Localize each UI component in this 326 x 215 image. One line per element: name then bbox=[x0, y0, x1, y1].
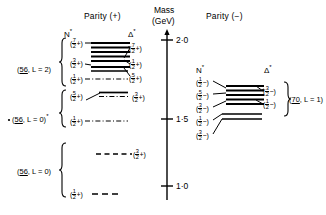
energy-level-diagram: Parity (+) Parity (−) Mass (GeV) N* Δ* N… bbox=[0, 0, 326, 215]
right-level-lines-70-L1 bbox=[222, 86, 264, 119]
left-level-lines-56-L0-star bbox=[85, 93, 130, 122]
mass-axis bbox=[161, 29, 173, 200]
brace-56-L2 bbox=[59, 38, 66, 86]
right-nstar-leaders bbox=[213, 81, 226, 134]
left-leader-lines-56-L2 bbox=[85, 43, 91, 65]
left-level-lines-56-L0 bbox=[92, 154, 132, 194]
diagram-vector-layer bbox=[0, 0, 326, 215]
brace-70-L1 bbox=[284, 82, 291, 116]
brace-56-L0 bbox=[59, 143, 66, 197]
brace-56-L0-star bbox=[59, 90, 66, 127]
footnote-dot bbox=[8, 119, 10, 121]
leader-line bbox=[86, 93, 100, 100]
